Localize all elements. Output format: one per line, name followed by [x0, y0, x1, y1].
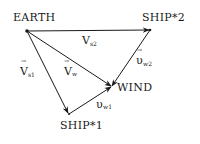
ship2-point	[149, 29, 152, 32]
vw2-subscript: w2	[143, 60, 152, 67]
vs2-subscript: s2	[90, 40, 97, 47]
vw1-symbol: υ	[96, 98, 103, 111]
vs1-arrow: →	[21, 57, 26, 64]
vs1-subscript: s1	[28, 71, 35, 78]
vw-subscript: w	[72, 70, 78, 77]
edge-label-vw2: → υ w2	[136, 46, 152, 67]
node-label-ship2: SHIP*2	[142, 11, 185, 24]
node-label-ship1: SHIP*1	[60, 119, 103, 132]
ship1-point	[68, 113, 70, 115]
node-label-earth: EARTH	[13, 11, 56, 24]
node-label-wind: WIND	[117, 81, 152, 94]
vw-arrow: →	[64, 57, 69, 64]
edge-vs2	[27, 30, 149, 31]
vector-diagram: EARTH SHIP*2 WIND SHIP*1 V s2 → V s1 → V…	[0, 0, 200, 144]
vw2-symbol: υ	[136, 54, 143, 67]
edge-label-vw: → V w	[63, 57, 78, 78]
vw2-arrow: →	[137, 46, 142, 53]
earth-point	[25, 29, 29, 33]
edge-label-vw1: υ w1	[96, 98, 112, 111]
edge-vw2	[112, 30, 150, 86]
edge-label-vs2: V s2	[81, 34, 97, 47]
vw1-subscript: w1	[103, 103, 112, 110]
edge-label-vs1: → V s1	[19, 57, 35, 78]
